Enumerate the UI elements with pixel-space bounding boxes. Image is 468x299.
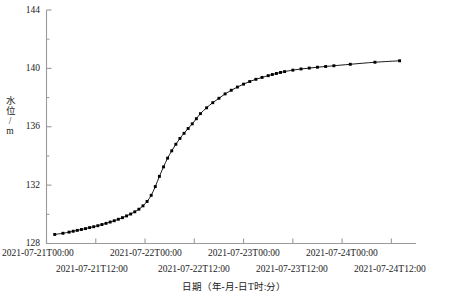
data-point — [308, 67, 311, 70]
data-point — [162, 165, 165, 168]
data-point — [166, 157, 169, 160]
data-point — [373, 61, 376, 64]
data-point — [236, 86, 239, 89]
data-point — [92, 225, 95, 228]
data-point — [195, 117, 198, 120]
data-point — [291, 69, 294, 72]
x-axis-title: 日期（年-月-日T时:分） — [0, 279, 468, 293]
data-point — [283, 70, 286, 73]
data-point — [316, 66, 319, 69]
data-point — [398, 59, 401, 62]
data-point — [100, 223, 103, 226]
data-point — [248, 80, 251, 83]
data-point — [105, 222, 108, 225]
data-point — [125, 214, 128, 217]
data-point — [199, 112, 202, 115]
y-axis-ticks — [47, 10, 52, 244]
y-tick-label-140: 140 — [12, 63, 40, 73]
y-tick-label-136: 136 — [12, 121, 40, 131]
x-tick-label-2021-07-23T00-00: 2021-07-23T00:00 — [208, 248, 280, 258]
data-point — [146, 200, 149, 203]
data-point — [154, 185, 157, 188]
data-point — [178, 137, 181, 140]
data-point — [275, 72, 278, 75]
data-point — [183, 132, 186, 135]
data-point — [68, 231, 71, 234]
data-point — [174, 143, 177, 146]
x-tick-label-2021-07-24T12-00: 2021-07-24T12:00 — [354, 264, 426, 274]
data-point — [53, 233, 56, 236]
x-tick-label-2021-07-22T12-00: 2021-07-22T12:00 — [158, 264, 230, 274]
data-point — [113, 219, 116, 222]
data-point — [109, 221, 112, 224]
data-point — [267, 74, 270, 77]
data-point — [142, 204, 145, 207]
data-point — [205, 106, 208, 109]
y-tick-label-132: 132 — [12, 180, 40, 190]
data-point — [80, 228, 83, 231]
data-point — [230, 89, 233, 92]
data-point — [96, 224, 99, 227]
data-point — [211, 101, 214, 104]
data-point — [84, 227, 87, 230]
data-point — [121, 216, 124, 219]
data-point — [170, 149, 173, 152]
data-point — [217, 97, 220, 100]
data-point — [254, 78, 257, 81]
y-tick-label-144: 144 — [12, 5, 40, 15]
series-markers-water-level — [53, 59, 401, 236]
data-point — [261, 76, 264, 79]
data-point — [224, 92, 227, 95]
data-point — [133, 210, 136, 213]
data-point — [300, 68, 303, 71]
x-axis-ticks — [47, 239, 392, 244]
data-point — [324, 65, 327, 68]
data-point — [242, 83, 245, 86]
data-point — [61, 232, 64, 235]
data-point — [137, 208, 140, 211]
data-point — [76, 229, 79, 232]
data-point — [191, 122, 194, 125]
data-point — [332, 64, 335, 67]
data-point — [271, 73, 274, 76]
data-point — [279, 71, 282, 74]
x-tick-label-2021-07-22T00-00: 2021-07-22T00:00 — [110, 248, 182, 258]
x-tick-label-2021-07-21T00-00: 2021-07-21T00:00 — [2, 248, 74, 258]
y-axis-title: 水位/m — [2, 96, 16, 136]
data-point — [88, 226, 91, 229]
data-point — [150, 194, 153, 197]
data-point — [117, 218, 120, 221]
data-point — [129, 213, 132, 216]
x-tick-label-2021-07-23T12-00: 2021-07-23T12:00 — [256, 264, 328, 274]
x-tick-label-2021-07-24T00-00: 2021-07-24T00:00 — [306, 248, 378, 258]
data-point — [349, 63, 352, 66]
water-level-chart: 144 140 136 132 128 水位/m 2021-07-21T00:0… — [0, 0, 468, 299]
data-point — [187, 127, 190, 130]
y-tick-label-128: 128 — [12, 238, 40, 248]
data-point — [158, 175, 161, 178]
data-point — [72, 230, 75, 233]
series-line-water-level — [55, 61, 400, 235]
x-tick-label-2021-07-21T12-00: 2021-07-21T12:00 — [56, 264, 128, 274]
